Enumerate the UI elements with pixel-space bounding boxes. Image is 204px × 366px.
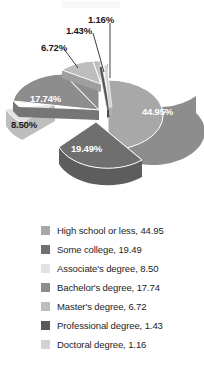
- legend-swatch-icon: [41, 264, 50, 273]
- legend-item-bachelor: Bachelor's degree, 17.74: [41, 278, 204, 297]
- chart-legend: High school or less, 44.95 Some college,…: [41, 221, 204, 354]
- slice-value-some-college: 19.49%: [71, 143, 102, 154]
- legend-item-professional: Professional degree, 1.43: [41, 316, 204, 335]
- slice-value-high-school: 44.95%: [142, 106, 173, 117]
- legend-swatch-icon: [41, 321, 50, 330]
- legend-swatch-icon: [41, 226, 50, 235]
- legend-label: Bachelor's degree, 17.74: [57, 282, 160, 293]
- pie-chart: 44.95% 19.49% 8.50% 17.74% 6.72% 1.43% 1…: [0, 0, 204, 205]
- legend-label: High school or less, 44.95: [57, 225, 164, 236]
- legend-item-doctoral: Doctoral degree, 1.16: [41, 335, 204, 354]
- legend-item-master: Master's degree, 6.72: [41, 297, 204, 316]
- legend-label: Associate's degree, 8.50: [57, 263, 158, 274]
- slice-value-associate: 8.50%: [11, 119, 37, 130]
- legend-item-associate: Associate's degree, 8.50: [41, 259, 204, 278]
- legend-label: Doctoral degree, 1.16: [57, 339, 146, 350]
- legend-swatch-icon: [41, 340, 50, 349]
- callout-value-professional: 1.43%: [66, 25, 92, 36]
- callout-value-master: 6.72%: [41, 42, 67, 53]
- legend-label: Master's degree, 6.72: [57, 301, 147, 312]
- legend-label: Professional degree, 1.43: [57, 320, 163, 331]
- legend-label: Some college, 19.49: [57, 244, 142, 255]
- legend-item-some-college: Some college, 19.49: [41, 240, 204, 259]
- legend-item-high-school: High school or less, 44.95: [41, 221, 204, 240]
- slice-value-bachelor: 17.74%: [30, 93, 61, 104]
- callout-value-doctoral: 1.16%: [88, 14, 114, 25]
- legend-swatch-icon: [41, 283, 50, 292]
- legend-swatch-icon: [41, 302, 50, 311]
- legend-swatch-icon: [41, 245, 50, 254]
